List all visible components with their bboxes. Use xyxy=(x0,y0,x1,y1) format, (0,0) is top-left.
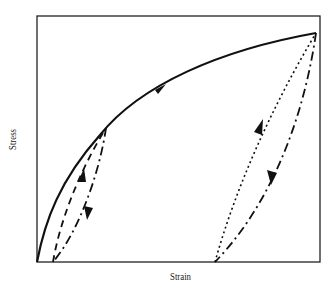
arrow-down-icon xyxy=(84,206,93,220)
small-loop-unload xyxy=(53,128,106,262)
arrow-up-icon xyxy=(78,168,86,182)
large-loop-reload xyxy=(215,33,316,262)
large-loop-unload xyxy=(215,33,316,262)
arrow-down-icon xyxy=(267,170,277,185)
primary-loading-curve xyxy=(37,33,316,262)
y-axis-label: Stress xyxy=(6,129,18,150)
stress-strain-diagram xyxy=(0,0,336,297)
small-loop-reload xyxy=(53,128,106,262)
plot-frame xyxy=(37,16,320,262)
arrow-up-icon xyxy=(254,119,263,135)
x-axis-label: Strain xyxy=(170,270,191,282)
